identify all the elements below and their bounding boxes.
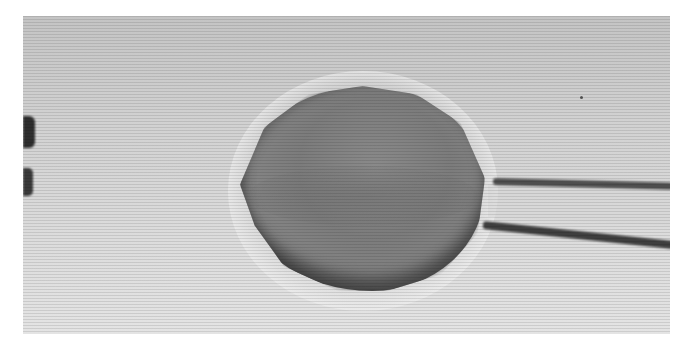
micropipette-lower-wall — [483, 221, 670, 249]
micropipette-lumen — [488, 184, 670, 226]
micrograph — [23, 16, 670, 334]
debris-speck — [580, 96, 583, 99]
partial-object-left-edge — [23, 116, 35, 196]
cell-shading — [248, 166, 478, 226]
